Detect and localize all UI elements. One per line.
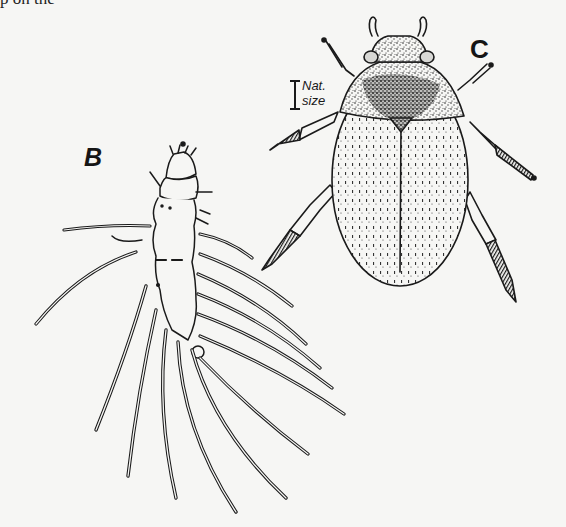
- beetle-adult-c: [262, 17, 536, 302]
- larva-b: [36, 142, 344, 512]
- scale-label-line1: Nat.: [302, 79, 326, 93]
- scale-bar-icon: [290, 80, 300, 110]
- scale-label-line2: size: [302, 94, 325, 108]
- insect-illustration: [0, 0, 566, 527]
- natural-size-scale-marker: Nat. size: [290, 78, 350, 114]
- figure-label-b: B: [84, 143, 102, 172]
- figure-label-c: C: [470, 34, 489, 65]
- scanned-book-page: p on the: [0, 0, 566, 527]
